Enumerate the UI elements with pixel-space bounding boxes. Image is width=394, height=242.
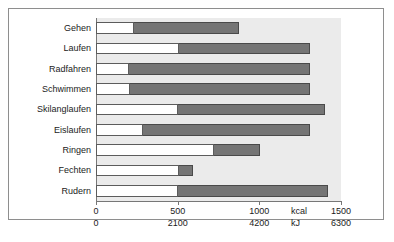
bar-segment-lower (96, 144, 214, 156)
stacked-bar-chart: GehenLaufenRadfahrenSchwimmenSkilanglauf… (9, 9, 385, 221)
bar-row: Skilanglaufen (9, 99, 385, 119)
stacked-bar-fechten[interactable] (96, 165, 193, 177)
bar-row: Rudern (9, 181, 385, 201)
bar-segment-lower (96, 124, 143, 136)
bar-row: Gehen (9, 18, 385, 38)
category-label-gehen: Gehen (1, 18, 91, 38)
stacked-bar-ringen[interactable] (96, 144, 260, 156)
tick-label-kcal-1000: 1000 (234, 206, 284, 216)
stacked-bar-eislaufen[interactable] (96, 124, 310, 136)
bar-segment-lower (96, 185, 178, 197)
tick-label-kJ-6300: 6300 (316, 218, 366, 228)
tick-mark (96, 201, 97, 205)
tick-mark (341, 201, 342, 205)
bar-row: Ringen (9, 140, 385, 160)
category-label-schwimmen: Schwimmen (1, 79, 91, 99)
category-label-rudern: Rudern (1, 181, 91, 201)
tick-mark (178, 201, 179, 205)
tick-mark (259, 201, 260, 205)
stacked-bar-laufen[interactable] (96, 43, 310, 55)
category-label-radfahren: Radfahren (1, 59, 91, 79)
category-label-laufen: Laufen (1, 38, 91, 58)
stacked-bar-rudern[interactable] (96, 185, 328, 197)
tick-label-kJ-4200: 4200 (234, 218, 284, 228)
tick-label-kcal-500: 500 (153, 206, 203, 216)
stacked-bar-skilanglaufen[interactable] (96, 104, 325, 116)
bar-row: Fechten (9, 160, 385, 180)
bar-row: Eislaufen (9, 120, 385, 140)
axis-unit-kcal: kcal (291, 206, 307, 216)
tick-label-kJ-2100: 2100 (153, 218, 203, 228)
tick-label-kcal-0: 0 (71, 206, 121, 216)
bar-row: Radfahren (9, 59, 385, 79)
bar-segment-lower (96, 63, 129, 75)
category-label-eislaufen: Eislaufen (1, 120, 91, 140)
bar-segment-lower (96, 43, 179, 55)
bar-row: Schwimmen (9, 79, 385, 99)
axis-unit-kJ: kJ (291, 218, 300, 228)
bar-segment-lower (96, 104, 178, 116)
bar-segment-lower (96, 83, 130, 95)
category-label-fechten: Fechten (1, 160, 91, 180)
bar-row: Laufen (9, 38, 385, 58)
stacked-bar-schwimmen[interactable] (96, 83, 310, 95)
stacked-bar-gehen[interactable] (96, 22, 239, 34)
tick-label-kJ-0: 0 (71, 218, 121, 228)
bar-segment-lower (96, 22, 134, 34)
bar-segment-lower (96, 165, 179, 177)
tick-label-kcal-1500: 1500 (316, 206, 366, 216)
category-label-skilanglaufen: Skilanglaufen (1, 99, 91, 119)
x-axis-line (96, 201, 341, 202)
stacked-bar-radfahren[interactable] (96, 63, 310, 75)
chart-frame: GehenLaufenRadfahrenSchwimmenSkilanglauf… (8, 8, 384, 220)
category-label-ringen: Ringen (1, 140, 91, 160)
